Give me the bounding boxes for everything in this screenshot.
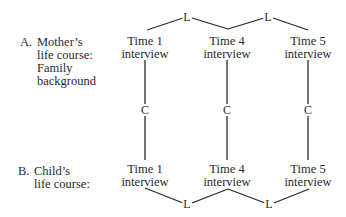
mother-node-time-5: Time 5 interview	[284, 35, 331, 61]
mother-node-time-1: Time 1 interview	[121, 35, 168, 61]
child-node-time-4: Time 4 interview	[203, 163, 250, 189]
longitudinal-link-label-bottom-1: L	[182, 198, 191, 210]
longitudinal-link-label-bottom-2: L	[264, 198, 273, 210]
section-a-marker: A.	[20, 36, 32, 49]
node-line-2: interview	[203, 176, 250, 189]
mother-node-time-4: Time 4 interview	[203, 35, 250, 61]
node-line-2: interview	[121, 48, 168, 61]
cross-link-label-time-1: C	[140, 104, 150, 116]
child-node-time-1: Time 1 interview	[121, 163, 168, 189]
longitudinal-link-label-top-1: L	[182, 11, 191, 23]
child-node-time-5: Time 5 interview	[284, 163, 331, 189]
node-line-2: interview	[284, 176, 331, 189]
node-line-2: interview	[203, 48, 250, 61]
longitudinal-link-label-top-2: L	[263, 11, 272, 23]
section-b-line-2: life course:	[34, 178, 90, 191]
node-line-2: interview	[284, 48, 331, 61]
cross-link-label-time-4: C	[222, 104, 232, 116]
section-a-label: Mother’s life course: Family background	[37, 36, 96, 88]
section-b-label: Child’s life course:	[34, 165, 90, 191]
section-a-line-4: background	[37, 75, 96, 88]
section-b-marker: B.	[18, 165, 29, 178]
cross-link-label-time-5: C	[303, 104, 313, 116]
node-line-2: interview	[121, 176, 168, 189]
